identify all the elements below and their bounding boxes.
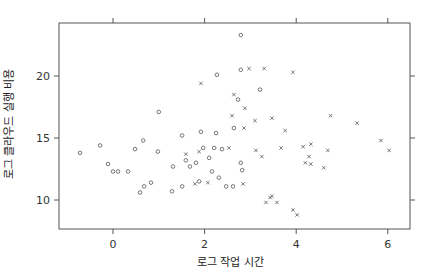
circle-marker (126, 170, 130, 174)
cross-marker (326, 149, 329, 152)
x-tick-label: 0 (110, 238, 117, 251)
data-points (78, 33, 391, 216)
scatter-chart: 0246 101520 로그 작업 시간 로그 클라우드 실행 비용 (0, 0, 430, 280)
cross-marker (197, 150, 200, 153)
circle-marker (194, 161, 198, 165)
cross-marker (199, 82, 202, 85)
circle-marker (201, 146, 205, 150)
cross-marker (206, 181, 209, 184)
cross-marker (247, 67, 250, 70)
cross-marker (387, 149, 390, 152)
circle-marker (133, 147, 137, 151)
cross-marker (329, 114, 332, 117)
cross-marker (253, 119, 256, 122)
cross-marker (264, 201, 267, 204)
circle-marker (214, 131, 218, 135)
circle-marker (207, 156, 211, 160)
circle-marker (212, 146, 216, 150)
cross-marker (242, 126, 245, 129)
cross-marker (284, 129, 287, 132)
cross-marker (291, 208, 294, 211)
x-axis-ticks: 0246 (110, 18, 392, 251)
circle-marker (184, 159, 188, 163)
circle-marker (215, 73, 219, 77)
circle-marker (199, 130, 203, 134)
circle-marker (239, 33, 243, 37)
circle-marker (141, 139, 145, 143)
cross-marker (232, 93, 235, 96)
x-tick-label: 2 (201, 238, 208, 251)
cross-marker (295, 213, 298, 216)
cross-marker (301, 145, 304, 148)
circle-marker (180, 134, 184, 138)
circle-marker (138, 191, 142, 195)
circle-marker (180, 185, 184, 189)
y-axis-label: 로그 클라우드 실행 비용 (3, 69, 16, 180)
cross-marker (309, 162, 312, 165)
cross-marker (230, 114, 233, 117)
circle-marker (258, 88, 262, 92)
circle-marker (111, 170, 115, 174)
x-tick-label: 6 (384, 238, 391, 251)
cross-marker (309, 143, 312, 146)
cross-marker (304, 161, 307, 164)
cross-marker (379, 139, 382, 142)
circle-marker (171, 165, 175, 169)
cross-marker (307, 155, 310, 158)
circle-marker (197, 180, 201, 184)
circle-marker (210, 170, 214, 174)
circle-marker (188, 165, 192, 169)
x-tick-label: 4 (293, 238, 300, 251)
circle-marker (239, 68, 243, 72)
circle-marker (78, 151, 82, 155)
cross-marker (184, 152, 187, 155)
circle-marker (156, 150, 160, 154)
cross-marker (193, 182, 196, 185)
circle-marker (142, 185, 146, 189)
y-tick-label: 15 (36, 132, 50, 145)
circle-marker (149, 181, 153, 185)
x-axis-label: 로그 작업 시간 (197, 256, 264, 269)
circle-marker (157, 110, 161, 114)
y-tick-label: 20 (36, 70, 50, 83)
circle-marker (217, 176, 221, 180)
circle-marker (232, 126, 236, 130)
cross-marker (268, 196, 271, 199)
cross-marker (355, 121, 358, 124)
circle-marker (220, 147, 224, 151)
cross-marker (291, 71, 294, 74)
circle-marker (239, 161, 243, 165)
cross-marker (241, 182, 244, 185)
circle-marker (106, 162, 110, 166)
cross-marker (260, 155, 263, 158)
y-axis-ticks: 101520 (36, 70, 415, 207)
cross-marker (254, 149, 257, 152)
circle-marker (231, 185, 235, 189)
cross-marker (243, 107, 246, 110)
y-tick-label: 10 (36, 194, 50, 207)
circle-marker (236, 98, 240, 102)
cross-marker (270, 116, 273, 119)
cross-marker (270, 195, 273, 198)
cross-marker (322, 166, 325, 169)
circle-marker (170, 190, 174, 194)
cross-marker (275, 201, 278, 204)
circle-marker (240, 168, 244, 172)
cross-marker (279, 146, 282, 149)
cross-marker (262, 67, 265, 70)
cross-marker (227, 146, 230, 149)
circle-marker (224, 185, 228, 189)
circle-marker (116, 170, 120, 174)
circle-marker (98, 144, 102, 148)
